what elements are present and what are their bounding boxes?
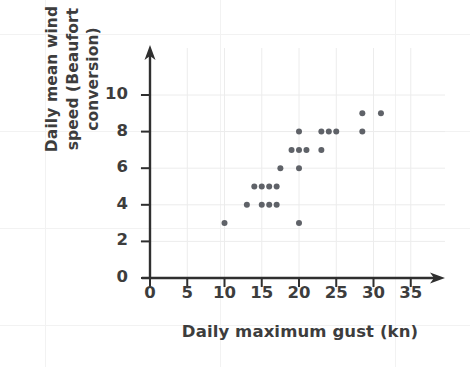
data-point [296,165,302,171]
x-tick-label: 25 [321,283,351,302]
plot-gridlines [140,48,445,290]
data-point [333,129,339,135]
data-point [259,202,265,208]
y-axis-title: Daily mean windspeed (Beaufortconversion… [42,0,104,194]
data-point [274,202,280,208]
y-axis-title-container: Daily mean windspeed (Beaufortconversion… [42,0,104,194]
scatter-plot-figure: 05101520253035 0246810 Daily maximum gus… [0,0,470,367]
plot-axes [143,45,445,284]
data-point [259,184,265,190]
data-point [326,129,332,135]
y-tick-label: 2 [98,230,128,249]
data-point [359,129,365,135]
x-axis-title: Daily maximum gust (kn) [150,322,450,341]
data-point [266,184,272,190]
data-point [318,147,324,153]
x-tick-label: 5 [172,283,202,302]
data-point [244,202,250,208]
x-tick-label: 10 [210,283,240,302]
data-point [296,129,302,135]
x-tick-label: 30 [359,283,389,302]
x-tick-label: 35 [396,283,426,302]
data-point [378,110,384,116]
y-tick-label: 0 [98,267,128,286]
data-point [251,184,257,190]
y-axis-title-line: conversion) [83,0,104,194]
data-point [303,147,309,153]
x-tick-label: 20 [284,283,314,302]
data-point [296,147,302,153]
data-point [318,129,324,135]
y-tick-label: 4 [98,194,128,213]
axis-tick-marks [141,95,411,287]
x-tick-label: 0 [135,283,165,302]
x-tick-label: 15 [247,283,277,302]
data-point [289,147,295,153]
y-axis-title-line: speed (Beaufort [63,0,84,194]
y-axis-title-line: Daily mean wind [42,0,63,194]
data-point [266,202,272,208]
data-point [274,184,280,190]
data-point [296,220,302,226]
data-point [277,165,283,171]
data-point [222,220,228,226]
data-point [359,110,365,116]
